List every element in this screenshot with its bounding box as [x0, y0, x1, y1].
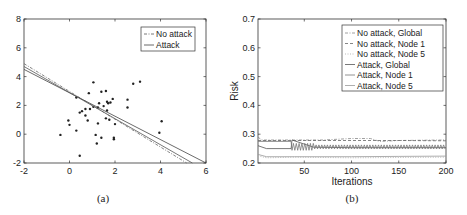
data-point	[59, 134, 61, 136]
data-point	[96, 142, 98, 144]
y-tick-label: 2	[16, 100, 21, 110]
x-tick-label: 200	[438, 166, 453, 176]
data-point	[87, 119, 89, 121]
data-point	[139, 80, 141, 82]
x-tick-label: 0	[67, 166, 72, 176]
data-point	[105, 117, 107, 119]
y-tick-label: 8	[16, 14, 21, 24]
x-tick-label: 150	[391, 166, 406, 176]
y-axis-label: Risk	[229, 80, 240, 100]
data-point	[89, 108, 91, 110]
data-point	[94, 134, 96, 136]
y-tick-label: 0.4	[242, 100, 255, 110]
data-point	[79, 111, 81, 113]
data-point	[75, 129, 77, 131]
x-tick-label: 50	[299, 166, 309, 176]
y-tick-label: 0.7	[242, 14, 255, 24]
data-point	[100, 137, 102, 139]
data-point	[84, 108, 86, 110]
data-point	[84, 114, 86, 116]
plot-b-legend: No attack, GlobalNo attack, Node 1No att…	[342, 25, 443, 91]
x-tick-label: -2	[20, 166, 28, 176]
y-tick-label: 0.3	[242, 129, 255, 139]
legend-label: Attack, Node 1	[357, 70, 413, 80]
plot-a-legend: No attack Attack	[141, 27, 195, 51]
y-tick-label: 0.5	[242, 72, 255, 82]
data-point	[112, 98, 114, 100]
y-tick-label: 0.6	[242, 43, 255, 53]
y-tick-label: 0.2	[242, 158, 255, 168]
data-point	[114, 123, 116, 125]
data-point	[113, 138, 115, 140]
panel-a: -20246-202468 No attack Attack (a)	[13, 14, 209, 205]
data-point	[100, 91, 102, 93]
data-point	[88, 92, 90, 94]
data-point	[97, 122, 99, 124]
legend-no-attack-label: No attack	[156, 29, 193, 39]
data-point	[68, 124, 70, 126]
data-point	[79, 155, 81, 157]
legend-label: No attack, Global	[357, 28, 422, 38]
x-tick-label: 6	[203, 166, 208, 176]
data-point	[108, 119, 110, 121]
data-point	[126, 106, 128, 108]
legend-attack-label: Attack	[156, 40, 180, 50]
data-point	[98, 102, 100, 104]
x-tick-label: 100	[344, 166, 359, 176]
data-point	[160, 120, 162, 122]
data-point	[105, 90, 107, 92]
x-tick-label: 2	[112, 166, 117, 176]
data-point	[81, 110, 83, 112]
data-point	[132, 83, 134, 85]
legend-label: Attack, Node 5	[357, 81, 413, 91]
y-tick-label: 0	[16, 129, 21, 139]
data-point	[102, 105, 104, 107]
data-point	[67, 119, 69, 121]
figure: -20246-202468 No attack Attack (a) 50100…	[0, 0, 467, 215]
data-point	[126, 98, 128, 100]
x-axis-label: Iterations	[331, 176, 372, 187]
x-tick-label: 4	[158, 166, 163, 176]
legend-label: No attack, Node 1	[357, 39, 425, 49]
legend-label: Attack, Global	[357, 60, 410, 70]
caption-a: (a)	[97, 192, 110, 205]
data-point	[92, 81, 94, 83]
y-tick-label: -2	[13, 158, 21, 168]
legend-label: No attack, Node 5	[357, 49, 425, 59]
y-tick-label: 6	[16, 43, 21, 53]
data-point	[109, 101, 111, 103]
data-point	[107, 102, 109, 104]
panel-b: 501001502000.20.30.40.50.60.7 No attack,…	[229, 14, 454, 205]
y-tick-label: 4	[16, 72, 21, 82]
caption-b: (b)	[346, 192, 359, 205]
data-point	[158, 132, 160, 134]
